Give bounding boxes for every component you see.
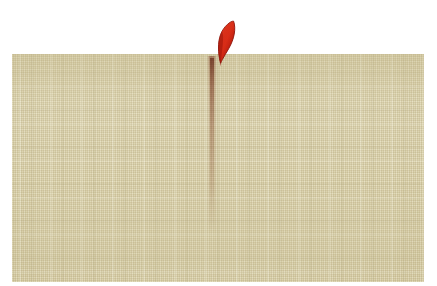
stain-streak-core [210,58,214,208]
red-leaf-tip [220,63,221,66]
red-leaf-icon [206,18,246,68]
image-canvas [0,0,437,286]
fabric-shading-overlay [12,54,424,282]
fabric-swatch [12,54,424,282]
